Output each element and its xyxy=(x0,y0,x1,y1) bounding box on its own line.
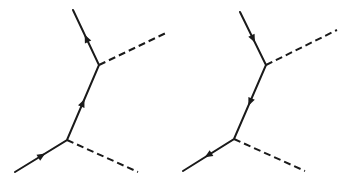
feynman-diagrams xyxy=(0,0,352,189)
boson-line xyxy=(234,139,305,171)
fermion-line xyxy=(15,10,99,172)
feynman-diagram-right xyxy=(183,12,337,171)
boson-line xyxy=(99,32,168,65)
boson-line xyxy=(67,140,138,172)
feynman-diagram-left xyxy=(15,10,168,172)
boson-line xyxy=(266,30,337,65)
